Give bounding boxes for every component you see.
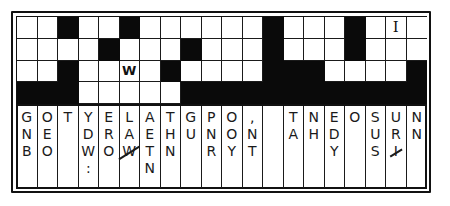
grid-cell[interactable] xyxy=(284,17,305,39)
grid-cell[interactable] xyxy=(79,17,100,39)
clue-column: TA xyxy=(284,106,305,188)
grid-cell[interactable] xyxy=(222,39,243,61)
black-square xyxy=(120,17,141,39)
grid-cell[interactable] xyxy=(366,39,387,61)
grid-cell[interactable] xyxy=(202,39,223,61)
black-square xyxy=(181,82,202,104)
clue-letter: O xyxy=(42,143,53,160)
grid-cell[interactable] xyxy=(304,39,325,61)
black-square xyxy=(202,82,223,104)
clue-letter-used: I xyxy=(394,143,398,160)
grid-cell[interactable] xyxy=(386,61,407,83)
clue-letter: O xyxy=(226,126,237,143)
grid-cell[interactable] xyxy=(202,61,223,83)
black-square xyxy=(345,17,366,39)
clue-letter: P xyxy=(207,109,215,126)
clue-column: SUS xyxy=(366,106,387,188)
black-square xyxy=(58,61,79,83)
grid-cell[interactable] xyxy=(17,17,38,39)
grid-cell[interactable] xyxy=(99,17,120,39)
grid-cell[interactable]: W xyxy=(120,61,141,83)
clue-letter: L xyxy=(125,109,133,126)
black-square xyxy=(17,82,38,104)
clue-letter: A xyxy=(288,126,298,143)
clue-letter: Y xyxy=(330,143,339,160)
grid-cell[interactable] xyxy=(161,17,182,39)
grid-cell[interactable] xyxy=(407,17,428,39)
black-square xyxy=(181,39,202,61)
grid-cell[interactable] xyxy=(181,61,202,83)
clue-column: NH xyxy=(304,106,325,188)
grid-cell[interactable] xyxy=(243,39,264,61)
clue-column: URI xyxy=(386,106,407,188)
grid-cell[interactable] xyxy=(17,39,38,61)
grid-cell[interactable] xyxy=(140,17,161,39)
grid-cell[interactable] xyxy=(407,39,428,61)
clue-letter: O xyxy=(103,143,114,160)
clue-letter: A xyxy=(124,126,134,143)
clue-letter: N xyxy=(412,126,422,143)
grid-cell[interactable] xyxy=(366,17,387,39)
clue-letter: T xyxy=(166,109,175,126)
grid-cell[interactable] xyxy=(325,61,346,83)
black-square xyxy=(407,61,428,83)
grid-cell[interactable] xyxy=(243,61,264,83)
clue-letter: : xyxy=(86,160,91,177)
grid-cell[interactable] xyxy=(161,39,182,61)
black-square xyxy=(304,61,325,83)
black-square xyxy=(366,82,387,104)
black-square xyxy=(386,82,407,104)
clue-letter: R xyxy=(391,126,401,143)
grid-cell[interactable] xyxy=(140,39,161,61)
clue-letter: O xyxy=(42,109,53,126)
grid-cell[interactable] xyxy=(181,17,202,39)
grid-cell[interactable] xyxy=(140,61,161,83)
grid-cell[interactable] xyxy=(140,82,161,104)
grid-cell[interactable] xyxy=(325,17,346,39)
clue-column: GU xyxy=(181,106,202,188)
grid-cell[interactable] xyxy=(366,61,387,83)
black-square xyxy=(58,82,79,104)
clue-letter: N xyxy=(412,109,422,126)
grid-cell[interactable] xyxy=(161,82,182,104)
grid-cell[interactable] xyxy=(38,39,59,61)
grid-cell[interactable] xyxy=(304,17,325,39)
grid-cell[interactable] xyxy=(58,39,79,61)
grid-cell[interactable] xyxy=(38,17,59,39)
clue-letter: S xyxy=(371,143,380,160)
black-square xyxy=(263,61,284,83)
clue-letter: H xyxy=(308,126,319,143)
clue-letter: U xyxy=(391,109,401,126)
grid-cell[interactable] xyxy=(99,61,120,83)
grid-cell[interactable] xyxy=(222,61,243,83)
grid-cell[interactable] xyxy=(243,17,264,39)
black-square xyxy=(325,82,346,104)
clue-letter: T xyxy=(145,143,154,160)
grid-cell[interactable] xyxy=(202,17,223,39)
black-square xyxy=(263,82,284,104)
grid-cell[interactable] xyxy=(79,61,100,83)
clue-column: ,NT xyxy=(243,106,264,188)
grid-cell[interactable] xyxy=(120,39,141,61)
grid-cell[interactable] xyxy=(17,61,38,83)
grid-cell[interactable]: I xyxy=(386,17,407,39)
black-square xyxy=(243,82,264,104)
grid-cell[interactable] xyxy=(345,61,366,83)
grid-cell[interactable] xyxy=(284,39,305,61)
grid-cell[interactable] xyxy=(38,61,59,83)
clue-column: GNB xyxy=(17,106,38,188)
clue-column: T xyxy=(58,106,79,188)
grid-cell[interactable] xyxy=(79,39,100,61)
grid-cell[interactable] xyxy=(99,82,120,104)
grid-cell[interactable] xyxy=(386,39,407,61)
clue-letter: N xyxy=(247,126,257,143)
grid-cell[interactable] xyxy=(120,82,141,104)
clue-letter: O xyxy=(226,109,237,126)
clue-column xyxy=(263,106,284,188)
grid-cell[interactable] xyxy=(79,82,100,104)
black-square xyxy=(345,82,366,104)
clue-column: OOY xyxy=(222,106,243,188)
black-square xyxy=(161,61,182,83)
grid-cell[interactable] xyxy=(222,17,243,39)
grid-cell[interactable] xyxy=(325,39,346,61)
